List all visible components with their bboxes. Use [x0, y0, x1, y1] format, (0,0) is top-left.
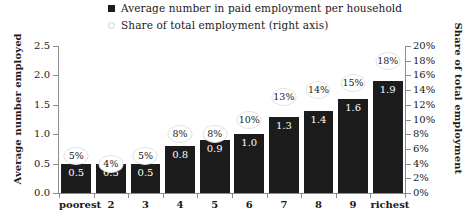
x-axis-tick [301, 194, 302, 198]
x-axis-category-label: 2 [94, 199, 129, 211]
bar-group[interactable]: 1.010% [232, 46, 267, 193]
right-axis-tick [406, 178, 411, 179]
bar-value-label: 0.5 [131, 167, 161, 178]
x-axis-category-label: 3 [128, 199, 163, 211]
bar[interactable]: 1.3 [269, 117, 299, 193]
bar-value-label: 1.3 [269, 120, 299, 131]
bar-group[interactable]: 0.54% [94, 46, 129, 193]
bars-layer: 0.55%0.54%0.55%0.88%0.98%1.010%1.313%1.4… [59, 46, 405, 193]
right-axis-tick-label: 10% [413, 115, 435, 125]
bar[interactable]: 0.5 [61, 164, 91, 193]
x-axis-category-label: 9 [336, 199, 371, 211]
right-axis-tick-label: 12% [413, 100, 435, 110]
share-percent-marker[interactable]: 15% [341, 74, 366, 92]
bar-group[interactable]: 0.55% [128, 46, 163, 193]
right-axis-tick [406, 120, 411, 121]
legend-entry-share-of-employment: Share of total employment (right axis) [0, 19, 468, 31]
left-axis-tick-label: 0.0 [34, 188, 50, 198]
x-axis-tick [59, 194, 60, 198]
right-axis-tick-label: 4% [413, 159, 429, 169]
bar[interactable]: 0.5 [131, 164, 161, 193]
x-axis-category-labels: poorest23456789richest [59, 199, 405, 215]
left-axis-tick-label: 2.5 [34, 41, 50, 51]
left-axis-title: Average number employed [12, 35, 23, 185]
share-percent-marker[interactable]: 5% [133, 147, 158, 165]
hollow-circle-icon [108, 22, 115, 29]
right-axis-tick [406, 164, 411, 165]
right-axis-tick-label: 6% [413, 144, 429, 154]
bar-group[interactable]: 1.615% [336, 46, 371, 193]
left-axis-tick-label: 2.0 [34, 70, 50, 80]
bar[interactable]: 1.0 [234, 134, 264, 193]
right-axis-tick [406, 90, 411, 91]
share-percent-marker[interactable]: 14% [306, 81, 331, 99]
bar-group[interactable]: 1.918% [370, 46, 405, 193]
x-axis-category-label: poorest [59, 199, 94, 211]
bar-group[interactable]: 0.98% [197, 46, 232, 193]
legend-swatch-box [108, 5, 121, 12]
right-axis-tick-label: 2% [413, 173, 429, 183]
bar[interactable]: 1.4 [304, 111, 334, 193]
x-axis-category-label: 8 [301, 199, 336, 211]
bar-value-label: 1.9 [373, 84, 403, 95]
share-percent-marker[interactable]: 5% [64, 147, 89, 165]
bar[interactable]: 1.9 [373, 81, 403, 193]
x-axis-category-label: 4 [163, 199, 198, 211]
left-axis-tick [53, 134, 58, 135]
right-axis-tick-label: 0% [413, 188, 429, 198]
bar-group[interactable]: 1.414% [301, 46, 336, 193]
share-percent-marker[interactable]: 8% [168, 125, 193, 143]
left-axis-tick-label: 1.0 [34, 129, 50, 139]
right-axis-tick-label: 16% [413, 70, 435, 80]
share-percent-marker[interactable]: 10% [237, 111, 262, 129]
x-axis-tick [94, 194, 95, 198]
right-axis-tick [406, 149, 411, 150]
filled-square-icon [108, 5, 115, 12]
x-axis-category-label: 5 [197, 199, 232, 211]
x-axis-category-label: 7 [267, 199, 302, 211]
x-axis-tick [267, 194, 268, 198]
bar-value-label: 1.6 [338, 102, 368, 113]
bar-value-label: 1.4 [304, 114, 334, 125]
x-axis-tick [163, 194, 164, 198]
right-axis-tick-label: 14% [413, 85, 435, 95]
x-axis-tick [405, 194, 406, 198]
bar-value-label: 0.5 [61, 167, 91, 178]
right-axis-tick [406, 105, 411, 106]
left-axis-tick [53, 46, 58, 47]
left-axis-tick [53, 75, 58, 76]
left-axis-tick-label: 0.5 [34, 159, 50, 169]
bar[interactable]: 1.6 [338, 99, 368, 193]
legend-label: Average number in paid employment per ho… [121, 2, 402, 14]
left-axis-tick [53, 164, 58, 165]
right-axis-tick [406, 134, 411, 135]
x-axis-tick [128, 194, 129, 198]
legend-swatch-box [108, 22, 121, 29]
chart-legend: Average number in paid employment per ho… [0, 2, 468, 36]
x-axis-tick [232, 194, 233, 198]
x-axis-tick [336, 194, 337, 198]
bar-value-label: 0.8 [165, 149, 195, 160]
bar[interactable]: 0.9 [200, 140, 230, 193]
right-axis-tick [406, 61, 411, 62]
bar-group[interactable]: 1.313% [267, 46, 302, 193]
share-percent-marker[interactable]: 8% [202, 125, 227, 143]
share-percent-marker[interactable]: 18% [375, 52, 400, 70]
left-axis-tick [53, 105, 58, 106]
bar-group[interactable]: 0.88% [163, 46, 198, 193]
legend-label: Share of total employment (right axis) [121, 19, 328, 31]
right-axis-tick [406, 75, 411, 76]
bar-group[interactable]: 0.55% [59, 46, 94, 193]
share-percent-marker[interactable]: 13% [271, 88, 296, 106]
bar-value-label: 1.0 [234, 137, 264, 148]
right-axis-tick [406, 46, 411, 47]
x-axis-category-label: richest [370, 199, 405, 211]
bar-value-label: 0.9 [200, 143, 230, 154]
right-axis-tick [406, 193, 411, 194]
share-percent-marker[interactable]: 4% [98, 155, 123, 173]
chart-container: Average number in paid employment per ho… [0, 0, 468, 220]
bar[interactable]: 0.8 [165, 146, 195, 193]
x-axis-tick [370, 194, 371, 198]
right-axis-tick-label: 20% [413, 41, 435, 51]
right-axis-tick-label: 8% [413, 129, 429, 139]
